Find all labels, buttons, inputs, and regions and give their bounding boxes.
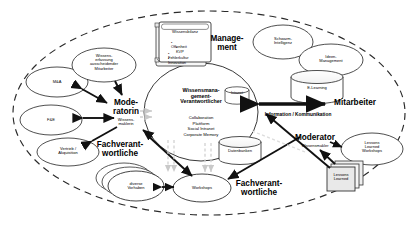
wissensbilanz-window[interactable] xyxy=(155,22,211,66)
node-vertrieb[interactable] xyxy=(37,138,99,166)
node-wissenserfassung[interactable] xyxy=(72,48,136,82)
diagram-canvas: Wissensbilanz • Offenheit • KVP • Fehler… xyxy=(0,0,418,225)
node-lessons-workshops[interactable] xyxy=(341,133,403,165)
node-e-learning[interactable] xyxy=(291,71,343,104)
node-intranet[interactable] xyxy=(225,87,249,104)
node-lessons-learned-documents[interactable] xyxy=(327,161,363,191)
node-workshops[interactable] xyxy=(173,174,231,202)
node-diverse[interactable] xyxy=(108,171,164,201)
diagram-vector-layer xyxy=(0,0,418,225)
node-datenbanken[interactable] xyxy=(219,137,261,165)
node-f-and-e[interactable] xyxy=(20,105,82,135)
